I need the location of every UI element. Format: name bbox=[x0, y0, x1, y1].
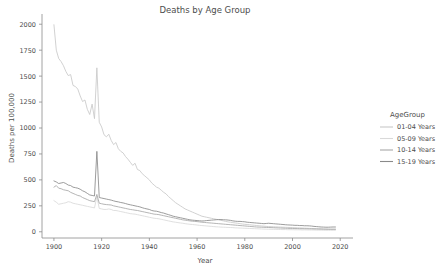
chart-title-group: Deaths by Age Group bbox=[160, 5, 251, 15]
legend-item-label: 15-19 Years bbox=[397, 158, 436, 166]
y-tick-label: 1000 bbox=[19, 124, 36, 132]
axes-group bbox=[42, 14, 353, 238]
page-title: Deaths by Age Group bbox=[160, 5, 251, 15]
y-tick-label: 250 bbox=[24, 202, 36, 210]
y-tick-group: 025050075010001250150017502000 bbox=[19, 21, 42, 237]
y-axis-label: Deaths per 100,000 bbox=[8, 93, 16, 163]
legend-item-label: 05-09 Years bbox=[397, 135, 436, 143]
y-tick-label: 1750 bbox=[19, 47, 36, 55]
y-tick-label: 2000 bbox=[19, 21, 36, 29]
x-axis-label: Year bbox=[197, 257, 213, 265]
legend-item-label: 10-14 Years bbox=[397, 146, 436, 154]
x-tick-label: 1920 bbox=[93, 243, 110, 251]
x-tick-label: 1960 bbox=[189, 243, 206, 251]
x-tick-group: 1900192019401960198020002020 bbox=[46, 238, 349, 251]
x-tick-label: 2000 bbox=[284, 243, 301, 251]
legend: AgeGroup 01-04 Years05-09 Years10-14 Yea… bbox=[380, 111, 436, 166]
x-tick-label: 2020 bbox=[332, 243, 349, 251]
deaths-by-age-group-chart: Deaths by Age Group 02505007501000125015… bbox=[0, 0, 441, 268]
y-tick-label: 1250 bbox=[19, 98, 36, 106]
y-tick-label: 750 bbox=[24, 150, 36, 158]
chart-figure: Deaths by Age Group 02505007501000125015… bbox=[0, 0, 441, 268]
y-tick-label: 500 bbox=[24, 176, 36, 184]
legend-title: AgeGroup bbox=[390, 111, 425, 119]
y-tick-label: 1500 bbox=[19, 73, 36, 81]
series-group bbox=[54, 25, 336, 230]
y-tick-label: 0 bbox=[32, 228, 36, 236]
x-tick-label: 1980 bbox=[237, 243, 254, 251]
x-tick-label: 1940 bbox=[141, 243, 158, 251]
series-line-15-19-years bbox=[54, 151, 336, 227]
legend-item-label: 01-04 Years bbox=[397, 123, 436, 131]
x-tick-label: 1900 bbox=[46, 243, 63, 251]
series-line-10-14-years bbox=[54, 186, 336, 230]
